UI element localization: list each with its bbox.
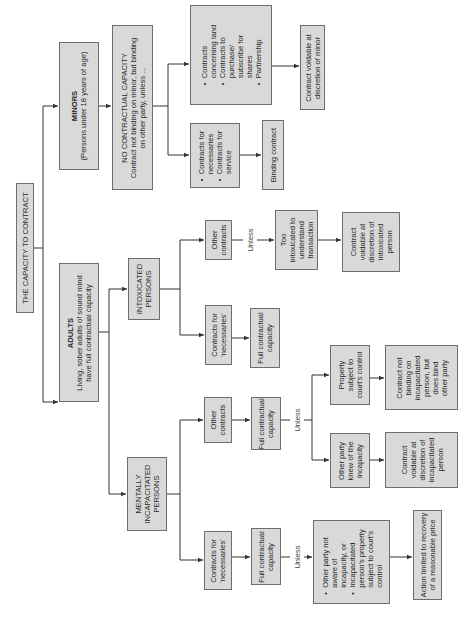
text-line: does bind (431, 361, 440, 394)
text-line: discretion of (367, 222, 376, 263)
text-line: Contracts for (209, 539, 218, 582)
no-capacity-line2: Contract not binding on minor, but bindi… (128, 37, 137, 178)
root-title: THE CAPACITY TO CONTRACT (21, 192, 30, 303)
other-party-not-aware-box: Other party notaware ofincapacity, or In… (313, 520, 390, 604)
binding-contract-text: Binding contract (269, 128, 278, 182)
text-line: intoxicated to (288, 218, 297, 263)
text-line: 'necessaries' (218, 539, 227, 582)
list-item: Contracts fornecessaries (197, 130, 215, 173)
text-line: court's control (355, 351, 364, 398)
text-line: capacity (266, 543, 275, 571)
text-line: discretion of (417, 440, 426, 481)
text-line: Other (210, 231, 219, 250)
no-contractual-capacity-box: NO CONTRACTUAL CAPACITY Contract not bin… (112, 25, 153, 190)
text-line: voidable at (408, 442, 417, 479)
intoxicated-heading-1: INTOXICATED (135, 264, 144, 314)
list-item: Partnership (254, 25, 263, 79)
text-line: Contract (399, 446, 408, 475)
minors-heading: MINORS (70, 91, 79, 121)
text-line: 'necessaries' (219, 313, 228, 356)
text-line: Contract not (395, 357, 404, 398)
text-line: Too (279, 234, 288, 246)
text-line: person, but (422, 359, 431, 397)
mental-heading-3: PERSONS (152, 475, 161, 512)
list-item: Contracts forservice (215, 130, 233, 173)
text-line: incapacitated (413, 355, 422, 400)
adults-line1: Living, sober adults of sound mind (75, 275, 84, 390)
minors-necessaries-service-box: Contracts fornecessaries Contracts forse… (190, 123, 240, 188)
text-line: Contract (349, 228, 358, 257)
text-line: incapacity (355, 444, 364, 478)
mental-nec-unless-label: Unless (293, 545, 302, 568)
list-item: Contracts topurchase/subscribe forshares (218, 25, 254, 79)
mental-heading-1: MENTALLY (134, 475, 143, 514)
text-line: binding on (404, 360, 413, 395)
minors-subtitle: (Persons under 18 years of age) (79, 52, 88, 161)
text-line: Contracts for (210, 313, 219, 356)
text-line: transaction (306, 221, 315, 258)
intox-necessaries-box: Contracts for 'necessaries' (205, 305, 232, 365)
no-capacity-line1: NO CONTRACTUAL CAPACITY (119, 53, 128, 163)
text-line: knew of the (346, 441, 355, 480)
list-item: Other party notaware ofincapacity, or (320, 529, 347, 587)
mental-other-unless-label: Unless (293, 408, 302, 431)
property-court-control-box: Property subject to court's control (330, 345, 370, 405)
text-line: incapacitated (426, 438, 435, 483)
text-line: intoxicated (376, 224, 385, 260)
minors-land-shares-partnership-box: Contractsconcerning land Contracts topur… (190, 5, 272, 105)
text-line: person (435, 448, 444, 471)
voidable-minor-line2: discretion of minor (313, 36, 322, 98)
intox-full-capacity-box: Full contractual capacity (250, 308, 280, 368)
text-line: person (385, 230, 394, 253)
adults-heading: ADULTS (66, 317, 75, 347)
text-line: contracts (219, 225, 228, 256)
text-line: subject to (346, 359, 355, 392)
text-line: understand (297, 221, 306, 259)
intoxicated-heading-2: PERSONS (144, 270, 153, 307)
other-party-knew-box: Other party knew of the incapacity (330, 433, 370, 488)
text-line: Full contractual (257, 398, 266, 450)
text-line: voidable at (358, 224, 367, 261)
intoxicated-persons-box: INTOXICATED PERSONS (128, 258, 160, 320)
voidable-minor-box: Contract voidable at discretion of minor (300, 25, 325, 110)
intox-unless-label: Unless (246, 228, 255, 251)
mental-heading-2: INCAPACITATED (143, 464, 152, 523)
text-line: Action limited to recovery (419, 513, 428, 598)
voidable-incapacitated-box: Contract voidable at discretion of incap… (385, 432, 458, 488)
list-item: Incapacitatedperson's propertysubject to… (347, 529, 383, 587)
text-line: capacity (265, 324, 274, 352)
root-capacity-to-contract-box: THE CAPACITY TO CONTRACT (16, 183, 34, 313)
mental-necessaries-box: Contracts for 'necessaries' (204, 531, 232, 590)
mental-full-capacity-nec-box: Full contractual capacity (251, 528, 281, 585)
list-item: Contractsconcerning land (200, 25, 218, 79)
voidable-minor-line1: Contract voidable at (304, 34, 313, 102)
no-capacity-line3: on other party, unless ... (137, 67, 146, 148)
intox-other-contracts-box: Other contracts (205, 220, 232, 260)
adults-line2: have full contractual capacity (84, 284, 93, 382)
text-line: Full contractual (257, 531, 266, 583)
text-line: Property (337, 361, 346, 390)
text-line: Full contractual (256, 312, 265, 364)
voidable-intoxicated-box: Contract voidable at discretion of intox… (342, 212, 400, 272)
action-limited-box: Action limited to recovery of a reasonab… (413, 510, 442, 600)
text-line: contracts (218, 405, 227, 436)
text-line: of a reasonable price (428, 520, 437, 591)
text-line: other party (440, 359, 449, 395)
adults-box: ADULTS Living, sober adults of sound min… (59, 263, 99, 402)
mental-other-contracts-box: Other contracts (204, 397, 232, 443)
mental-full-capacity-other-box: Full contractual capacity (251, 397, 281, 450)
text-line: Other party (337, 442, 346, 480)
text-line: capacity (266, 410, 275, 438)
not-binding-incapacitated-box: Contract not binding on incapacitated pe… (385, 345, 458, 410)
too-intoxicated-box: Too intoxicated to understand transactio… (275, 210, 318, 270)
text-line: Other (209, 411, 218, 430)
mentally-incapacitated-box: MENTALLY INCAPACITATED PERSONS (127, 457, 167, 531)
minors-box: MINORS (Persons under 18 years of age) (59, 42, 99, 170)
binding-contract-box: Binding contract (262, 120, 284, 190)
